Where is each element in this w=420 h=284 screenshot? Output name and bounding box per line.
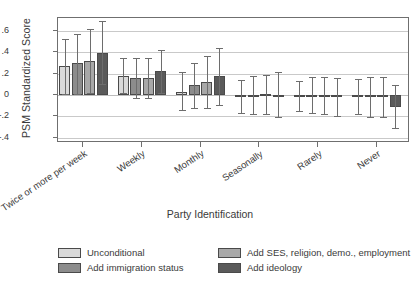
error-bar xyxy=(90,29,91,93)
error-bar-cap xyxy=(145,98,152,99)
plot-area xyxy=(57,17,409,142)
bar-group xyxy=(235,18,284,141)
error-bar-cap xyxy=(216,105,223,106)
error-bar-cap xyxy=(334,78,341,79)
error-bar xyxy=(370,77,371,118)
error-bar-cap xyxy=(321,77,328,78)
error-bar-cap xyxy=(367,117,374,118)
error-bar-cap xyxy=(392,128,399,129)
error-bar xyxy=(136,58,137,99)
y-tick-label: .4 xyxy=(0,46,9,56)
y-tick-label: .6 xyxy=(0,25,9,35)
error-bar xyxy=(77,34,78,94)
error-bar xyxy=(312,77,313,113)
error-bar xyxy=(207,56,208,107)
error-bar-cap xyxy=(334,116,341,117)
y-tick-label: -.2 xyxy=(0,110,9,120)
error-bar-cap xyxy=(62,39,69,40)
error-bar-cap xyxy=(309,77,316,78)
x-tick-label: Monthly xyxy=(172,148,206,176)
error-bar-cap xyxy=(191,108,198,109)
error-bar-cap xyxy=(355,79,362,80)
error-bar-cap xyxy=(99,84,106,85)
error-bar xyxy=(219,48,220,105)
error-bar-cap xyxy=(263,114,270,115)
error-bar xyxy=(148,58,149,99)
y-tick-label: -.4 xyxy=(0,132,9,142)
error-bar-cap xyxy=(99,21,106,22)
bar-group xyxy=(176,18,225,141)
error-bar-cap xyxy=(296,81,303,82)
error-bar-cap xyxy=(133,98,140,99)
error-bar xyxy=(358,79,359,114)
error-bar xyxy=(241,80,242,113)
bar-group xyxy=(352,18,401,141)
error-bar xyxy=(253,76,254,114)
legend-swatch xyxy=(58,263,81,273)
bar-group xyxy=(294,18,343,141)
legend-swatch xyxy=(218,263,241,273)
y-tick-label: 0 xyxy=(0,89,9,99)
error-bar-cap xyxy=(62,94,69,95)
error-bar-cap xyxy=(179,110,186,111)
legend-label: Add SES, religion, demo., employment xyxy=(247,247,410,258)
legend-swatch xyxy=(58,248,81,258)
legend-swatch xyxy=(218,248,241,258)
error-bar xyxy=(299,81,300,111)
y-axis-title: PSM Standardized Score xyxy=(20,3,32,153)
error-bar xyxy=(161,50,162,93)
error-bar-cap xyxy=(321,114,328,115)
error-bar-cap xyxy=(250,76,257,77)
error-bar-cap xyxy=(87,93,94,94)
error-bar-cap xyxy=(263,75,270,76)
error-bar-cap xyxy=(179,72,186,73)
error-bar-cap xyxy=(120,58,127,59)
error-bar-cap xyxy=(238,80,245,81)
x-tick-mark xyxy=(258,142,259,147)
chart-figure: PSM Standardized Score .6.4.20-.2-.4 Twi… xyxy=(0,0,420,284)
error-bar-cap xyxy=(380,117,387,118)
error-bar-cap xyxy=(87,29,94,30)
error-bar xyxy=(395,85,396,128)
bar-group xyxy=(59,18,108,141)
error-bar-cap xyxy=(133,58,140,59)
error-bar-cap xyxy=(309,113,316,114)
error-bar xyxy=(65,39,66,93)
legend-label: Add immigration status xyxy=(87,262,184,273)
error-bar-cap xyxy=(216,48,223,49)
error-bar-cap xyxy=(204,56,211,57)
x-tick-mark xyxy=(376,142,377,147)
legend-label: Unconditional xyxy=(87,247,145,258)
error-bar-cap xyxy=(250,114,257,115)
error-bar xyxy=(383,77,384,118)
x-tick-label: Never xyxy=(355,148,382,171)
legend-item[interactable]: Add SES, religion, demo., employment xyxy=(218,247,408,258)
error-bar xyxy=(266,75,267,115)
error-bar-cap xyxy=(275,117,282,118)
error-bar xyxy=(123,58,124,93)
x-tick-mark xyxy=(317,142,318,147)
legend-label: Add ideology xyxy=(247,262,302,273)
error-bar-cap xyxy=(158,50,165,51)
error-bar-cap xyxy=(367,77,374,78)
error-bar-cap xyxy=(355,114,362,115)
error-bar xyxy=(337,78,338,116)
error-bar xyxy=(182,72,183,109)
error-bar-cap xyxy=(238,113,245,114)
error-bar-cap xyxy=(158,93,165,94)
legend-item[interactable]: Add immigration status xyxy=(58,262,218,273)
error-bar-cap xyxy=(74,94,81,95)
error-bar-cap xyxy=(145,58,152,59)
chart-legend: UnconditionalAdd SES, religion, demo., e… xyxy=(58,245,408,275)
error-bar-cap xyxy=(275,72,282,73)
error-bar xyxy=(278,72,279,117)
x-tick-label: Rarely xyxy=(295,148,324,172)
error-bar xyxy=(102,21,103,84)
bar-group xyxy=(118,18,167,141)
error-bar-cap xyxy=(120,93,127,94)
legend-item[interactable]: Add ideology xyxy=(218,262,408,273)
y-tick-label: .2 xyxy=(0,68,9,78)
error-bar-cap xyxy=(204,108,211,109)
legend-item[interactable]: Unconditional xyxy=(58,247,218,258)
error-bar-cap xyxy=(392,85,399,86)
